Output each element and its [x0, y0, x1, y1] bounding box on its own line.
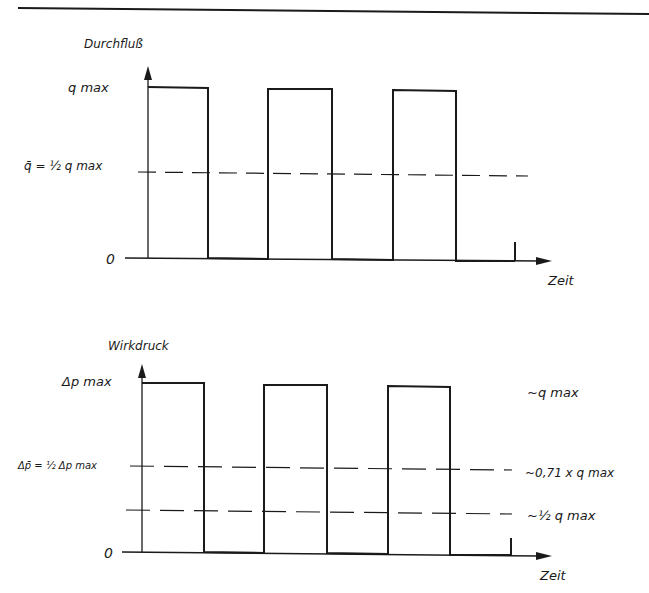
pressure-x-arrow-icon	[536, 552, 552, 560]
pressure-chart: Wirkdruck Δp max Δp̄ = ½ Δp max 0 Zeit ~…	[17, 339, 615, 583]
header-rule	[18, 8, 649, 14]
pressure-time-label: Zeit	[539, 568, 567, 583]
flow-zero-label: 0	[106, 251, 115, 267]
flow-time-label: Zeit	[547, 273, 575, 288]
right-annotation-mid: ~0,71 x q max	[525, 466, 615, 480]
pressure-zero-label: 0	[104, 545, 113, 561]
flow-y-arrow-icon	[144, 66, 152, 80]
flow-max-label: q max	[68, 80, 109, 95]
flow-x-arrow-icon	[536, 257, 552, 265]
flow-axis-label: Durchfluß	[84, 37, 143, 51]
right-annotation-low: ~½ q max	[527, 508, 596, 523]
pressure-mean-label: Δp̄ = ½ Δp max	[17, 460, 97, 471]
flow-pressure-diagram: Durchfluß q max q̄ = ½ q max 0 Zeit Wirk…	[0, 0, 649, 593]
pressure-max-label: Δp max	[61, 374, 112, 389]
pressure-y-arrow-icon	[138, 364, 146, 378]
pressure-axis-label: Wirkdruck	[108, 339, 170, 353]
pressure-mean-dashed-line	[130, 466, 512, 470]
right-annotation-max: ~q max	[527, 385, 579, 400]
flow-pulse-train	[148, 87, 515, 261]
pressure-half-dashed-line	[126, 510, 512, 514]
flow-mean-label: q̄ = ½ q max	[24, 159, 103, 173]
flow-chart: Durchfluß q max q̄ = ½ q max 0 Zeit	[24, 37, 575, 288]
